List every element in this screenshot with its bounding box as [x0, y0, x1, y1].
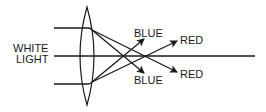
chromatic-aberration-diagram: WHITE LIGHT BLUE BLUE RED RED [0, 0, 266, 112]
red-label-bottom: RED [180, 68, 203, 80]
red-label-top: RED [180, 34, 203, 46]
blue-label-bottom: BLUE [134, 74, 163, 86]
ray-bend-bottom [88, 82, 92, 84]
ray-bend-top [88, 28, 92, 30]
white-light-label-line2: LIGHT [16, 53, 49, 65]
blue-label-top: BLUE [134, 27, 163, 39]
